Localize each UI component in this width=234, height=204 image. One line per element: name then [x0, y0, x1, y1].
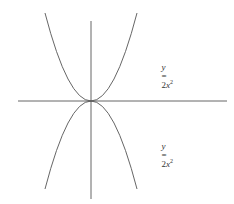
- label-exp: 2: [170, 79, 173, 85]
- label-exp: 2: [170, 158, 173, 164]
- label-upward-parabola: y = 2x2: [157, 54, 173, 90]
- parabola-plot: [0, 0, 234, 204]
- label-downward-parabola: y = 2x2: [157, 133, 173, 169]
